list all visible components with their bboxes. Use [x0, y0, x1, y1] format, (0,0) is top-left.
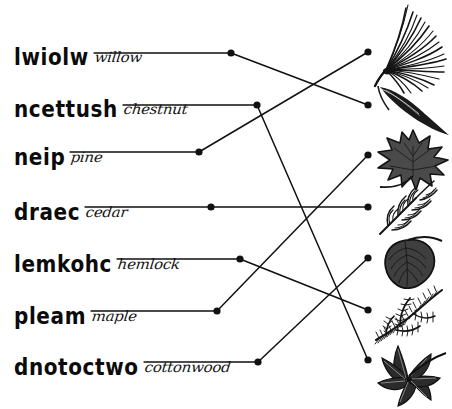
cedar-spray-image: [372, 178, 450, 240]
answer-text: willow: [94, 51, 143, 65]
worksheet-canvas: lwiolw willow ncettush chestnut neip pin…: [0, 0, 452, 409]
connector-line[interactable]: [217, 155, 368, 311]
worksheet-row: pleam maple: [14, 287, 136, 327]
scrambled-word: draec: [14, 201, 80, 223]
word-endpoint-dot[interactable]: [195, 148, 202, 155]
word-endpoint-dot[interactable]: [253, 101, 260, 108]
answer-text: maple: [91, 310, 137, 324]
word-endpoint-dot[interactable]: [213, 307, 220, 314]
connector-lines: [199, 52, 368, 362]
image-endpoint-dot[interactable]: [364, 151, 371, 158]
word-endpoint-dot[interactable]: [254, 358, 261, 365]
worksheet-row: dnotoctwo cottonwood: [14, 338, 229, 378]
cottonwood-leaf-image: [374, 234, 452, 296]
scrambled-word: neip: [14, 146, 65, 168]
worksheet-row: neip pine: [14, 128, 102, 168]
connector-line[interactable]: [231, 53, 368, 105]
answer-text: cedar: [85, 206, 128, 220]
image-endpoint-dot[interactable]: [364, 356, 371, 363]
worksheet-row: ncettush chestnut: [14, 80, 187, 120]
chestnut-leaf-image: [372, 340, 452, 408]
image-endpoint-dot[interactable]: [364, 254, 371, 261]
answer-blank[interactable]: hemlock: [117, 254, 179, 275]
worksheet-row: draec cedar: [14, 183, 127, 223]
pine-needles-image: [372, 2, 452, 94]
maple-leaf-image: [374, 126, 452, 194]
answer-text: cottonwood: [144, 361, 231, 375]
worksheet-row: lwiolw willow: [14, 28, 141, 68]
connector-line[interactable]: [257, 105, 368, 360]
answer-blank[interactable]: pine: [70, 147, 102, 168]
scrambled-word: ncettush: [14, 98, 118, 120]
scrambled-word: lemkohc: [14, 253, 112, 275]
word-endpoint-dot[interactable]: [207, 203, 214, 210]
scrambled-word: dnotoctwo: [14, 356, 139, 378]
answer-blank[interactable]: cottonwood: [144, 357, 230, 378]
answer-text: hemlock: [117, 258, 180, 272]
answer-text: chestnut: [123, 103, 188, 117]
worksheet-row: lemkohc hemlock: [14, 235, 179, 275]
answer-blank[interactable]: cedar: [85, 202, 127, 223]
answer-text: pine: [70, 151, 103, 165]
hemlock-branch-image: [370, 286, 452, 348]
scrambled-word: pleam: [14, 305, 86, 327]
image-endpoint-dot[interactable]: [364, 101, 371, 108]
image-endpoint-dot[interactable]: [364, 203, 371, 210]
image-endpoint-dot[interactable]: [364, 306, 371, 313]
image-endpoint-dot[interactable]: [364, 48, 371, 55]
scrambled-word: lwiolw: [14, 46, 89, 68]
answer-blank[interactable]: maple: [91, 306, 136, 327]
willow-leaf-image: [376, 80, 452, 138]
answer-blank[interactable]: chestnut: [123, 99, 187, 120]
answer-blank[interactable]: willow: [94, 47, 141, 68]
word-endpoint-dot[interactable]: [236, 255, 243, 262]
connector-line[interactable]: [199, 52, 368, 152]
connector-line[interactable]: [258, 258, 368, 362]
word-endpoint-dot[interactable]: [227, 49, 234, 56]
endpoint-dots: [195, 48, 371, 365]
connector-line[interactable]: [240, 259, 368, 310]
